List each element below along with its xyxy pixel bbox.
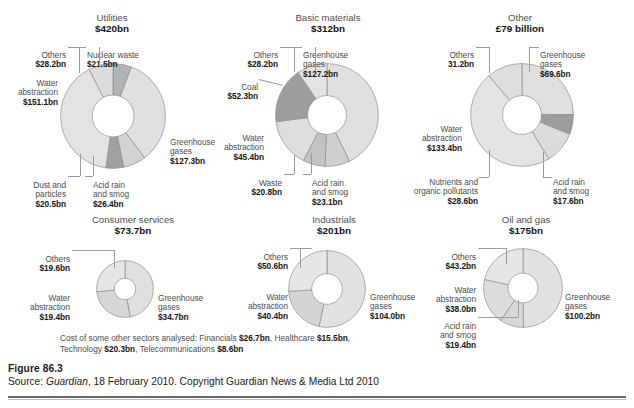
leader-line: [292, 47, 302, 48]
leader-line: [476, 47, 489, 48]
leader-line: [294, 47, 295, 72]
bottom-rule: [8, 396, 626, 398]
chart-title-label: Consumer services: [92, 214, 174, 225]
leader-line: [529, 47, 530, 72]
callout-label: Others: [45, 254, 70, 264]
callout-value: 31.2bn: [418, 60, 474, 70]
source-publication: Guardian: [46, 376, 88, 387]
leader-line: [290, 248, 312, 249]
pie-slice: [289, 251, 327, 292]
leader-line: [99, 47, 100, 67]
chart-title-oil-and-gas: Oil and gas $175bn: [478, 214, 574, 236]
footnote-text: Technology: [60, 344, 104, 354]
chart-title-label: Other: [508, 12, 532, 23]
figure-page: Utilities $420bn Others $28.2bn Nuclear …: [0, 0, 634, 408]
callout-oil-ghg: Greenhouse gases $100.2bn: [565, 283, 629, 331]
callout-value: $45.4bn: [208, 153, 264, 163]
chart-title-label: Basic materials: [295, 12, 360, 23]
leader-line: [76, 47, 86, 48]
callout-label: Greenhouse gases: [158, 293, 203, 313]
callout-label: Others: [449, 50, 474, 60]
footnote-text: ,: [348, 333, 350, 343]
leader-line: [294, 155, 295, 174]
callout-label: Greenhouse gases: [303, 50, 348, 70]
pie-slice: [485, 249, 523, 285]
callout-other-water: Water abstraction $133.4bn: [404, 115, 462, 163]
chart-title-industrials: Industrials $201bn: [288, 214, 380, 236]
chart-total-value: $201bn: [288, 225, 380, 236]
callout-value: $28.2bn: [222, 60, 278, 70]
leader-line: [529, 47, 539, 48]
callout-value: $127.2bn: [303, 70, 369, 80]
callout-other-acid: Acid rain and smog $17.6bn: [553, 168, 615, 216]
callout-label: Coal: [241, 82, 258, 92]
leader-line: [315, 47, 316, 71]
callout-value: $21.5bn: [87, 60, 157, 70]
chart-total-value: $420bn: [62, 23, 162, 34]
callout-label: Nuclear waste: [87, 50, 139, 60]
chart-title-other: Other £79 billion: [470, 12, 570, 34]
pie-slice: [125, 261, 153, 317]
leader-line: [478, 248, 506, 249]
bottom-rule-thin: [8, 399, 626, 400]
footnote-value: $26.7bn: [239, 333, 270, 343]
callout-value: $100.2bn: [565, 312, 629, 322]
callout-label: Others: [263, 252, 288, 262]
callout-label: Others: [451, 252, 476, 262]
pie-slice: [289, 290, 324, 327]
chart-total-value: $312bn: [270, 23, 386, 34]
leader-line: [518, 300, 519, 317]
callout-value: $133.4bn: [404, 144, 462, 154]
callout-basic-ghg: Greenhouse gases $127.2bn: [303, 41, 369, 89]
callout-value: $50.6bn: [228, 262, 288, 272]
callout-consumer-ghg: Greenhouse gases $34.7bn: [158, 284, 224, 332]
footnote-value: $15.5bn: [317, 333, 348, 343]
callout-value: $20.5bn: [8, 200, 66, 210]
footnote-text: Cost of some other sectors analysed: Fin…: [60, 333, 239, 343]
chart-title-utilities: Utilities $420bn: [62, 12, 162, 34]
leader-line: [114, 250, 115, 268]
callout-other-ghg: Greenhouse gases $69.6bn: [540, 41, 606, 89]
figure-number: Figure 86.3: [8, 362, 568, 375]
chart-title-label: Oil and gas: [502, 214, 551, 225]
callout-value: $23.1bn: [312, 198, 374, 208]
callout-value: $19.4bn: [8, 313, 70, 323]
callout-label: Water abstraction: [436, 285, 476, 305]
footnote-line-1: Cost of some other sectors analysed: Fin…: [60, 333, 490, 344]
figure-source: Source: Guardian, 18 February 2010. Copy…: [8, 376, 379, 387]
callout-utilities-acid: Acid rain and smog $26.4bn: [93, 171, 158, 219]
callout-value: $69.6bn: [540, 70, 606, 80]
other-sectors-footnote: Cost of some other sectors analysed: Fin…: [60, 333, 490, 354]
source-prefix: Source:: [8, 376, 46, 387]
chart-total-value: £79 billion: [470, 23, 570, 34]
pie-slice: [97, 290, 130, 317]
footnote-text: , Telecommunications: [135, 344, 217, 354]
leader-line: [80, 154, 81, 176]
chart-title-label: Industrials: [312, 214, 356, 225]
callout-label: Greenhouse gases: [370, 292, 415, 312]
callout-basic-acid: Acid rain and smog $23.1bn: [312, 169, 374, 217]
callout-value: $34.7bn: [158, 313, 224, 323]
callout-value: $26.4bn: [93, 200, 158, 210]
callout-industrials-water: Water abstraction $40.4bn: [222, 283, 288, 331]
footnote-value: $8.6bn: [217, 344, 243, 354]
leader-line: [72, 250, 114, 251]
callout-label: Acid rain and smog: [553, 177, 589, 197]
chart-total-value: $175bn: [478, 225, 574, 236]
leader-line: [479, 177, 489, 178]
source-rest: , 18 February 2010. Copyright Guardian N…: [88, 376, 379, 387]
leader-line: [85, 176, 93, 177]
leader-line: [543, 152, 544, 177]
callout-label: Greenhouse gases: [540, 50, 585, 70]
callout-basic-coal: Coal $52.3bn: [212, 73, 258, 111]
leader-line: [489, 47, 490, 73]
callout-value: $28.6bn: [398, 197, 478, 207]
chart-title-label: Utilities: [97, 12, 128, 23]
donut-chart-oil-and-gas: [483, 248, 563, 328]
callout-label: Water abstraction: [422, 124, 462, 144]
footnote-line-2: Technology $20.3bn, Telecommunications $…: [60, 344, 490, 355]
callout-label: Greenhouse gases: [565, 292, 610, 312]
chart-total-value: $73.7bn: [68, 225, 198, 236]
callout-label: Acid rain and smog: [312, 178, 348, 198]
callout-other-nutrients: Nutrients and organic pollutants $28.6bn: [398, 168, 478, 216]
